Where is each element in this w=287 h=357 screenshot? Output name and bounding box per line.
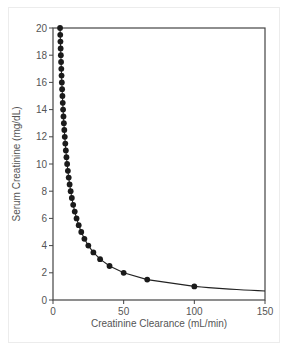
data-point	[107, 263, 113, 269]
x-tick-label: 0	[50, 306, 56, 317]
y-tick-label: 0	[41, 295, 47, 306]
data-point	[58, 39, 64, 45]
data-point	[72, 209, 78, 215]
x-tick-label: 50	[118, 306, 130, 317]
data-markers	[57, 25, 197, 289]
chart-svg: 02468101214161820050100150 Creatinine Cl…	[0, 0, 287, 357]
y-tick-label: 14	[36, 104, 48, 115]
data-point	[64, 154, 70, 160]
data-point	[66, 175, 72, 181]
y-tick-label: 2	[41, 267, 47, 278]
x-tick-label: 100	[186, 306, 203, 317]
data-point	[62, 141, 68, 147]
data-point	[144, 277, 150, 283]
data-point	[60, 107, 66, 113]
x-tick-label: 150	[257, 306, 274, 317]
data-point	[63, 148, 69, 154]
data-point	[60, 100, 66, 106]
data-point	[59, 73, 65, 79]
data-point	[69, 195, 75, 201]
y-tick-label: 18	[36, 50, 48, 61]
data-point	[85, 243, 91, 249]
y-tick-label: 20	[36, 23, 48, 34]
data-point	[191, 284, 197, 290]
data-point	[59, 86, 65, 92]
data-point	[59, 80, 65, 86]
data-point	[76, 222, 82, 228]
data-point	[64, 161, 70, 167]
data-point	[70, 202, 76, 208]
data-point	[57, 32, 63, 38]
data-point	[58, 59, 64, 65]
data-point	[65, 168, 71, 174]
data-point	[90, 250, 96, 256]
data-point	[121, 270, 127, 276]
y-tick-label: 12	[36, 131, 48, 142]
data-point	[82, 236, 88, 242]
axis-ticks: 02468101214161820050100150	[36, 23, 274, 318]
plot-box	[53, 28, 265, 300]
y-axis-label: Serum Creatinine (mg/dL)	[11, 106, 22, 221]
data-point	[61, 120, 67, 126]
plot-axes	[53, 28, 265, 300]
data-point	[58, 66, 64, 72]
x-axis-label: Creatinine Clearance (mL/min)	[91, 318, 227, 329]
data-point	[67, 182, 73, 188]
data-point	[74, 216, 80, 222]
data-point	[61, 114, 67, 120]
y-tick-label: 10	[36, 159, 48, 170]
data-point	[61, 127, 67, 133]
y-tick-label: 8	[41, 186, 47, 197]
data-point	[78, 229, 84, 235]
data-point	[60, 93, 66, 99]
data-point	[58, 52, 64, 58]
y-tick-label: 6	[41, 213, 47, 224]
data-point	[97, 256, 103, 262]
y-tick-label: 4	[41, 240, 47, 251]
data-point	[57, 25, 63, 31]
data-point	[62, 134, 68, 140]
data-point	[68, 188, 74, 194]
data-point	[58, 46, 64, 52]
y-tick-label: 16	[36, 77, 48, 88]
